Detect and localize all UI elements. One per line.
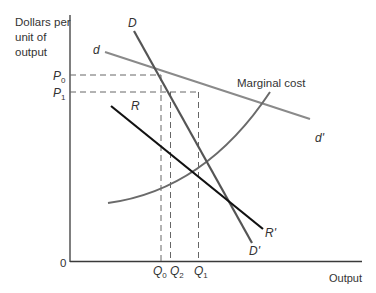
p0-label: P0: [53, 69, 66, 85]
D-end-label: D': [249, 244, 261, 258]
R-start-label: R: [131, 99, 140, 113]
R-end-label: R': [265, 226, 277, 240]
y-axis-label-line2: unit of: [15, 31, 47, 43]
D-start-label: D: [128, 16, 137, 30]
marginal-cost-label: Marginal cost: [237, 77, 306, 89]
y-axis-label-line3: output: [15, 46, 48, 58]
y-axis-label-line1: Dollars per: [15, 16, 71, 28]
q1-label: Q1: [194, 264, 208, 280]
origin-label: 0: [60, 257, 66, 269]
x-axis-label: Output: [329, 272, 362, 284]
q0-label: Q0: [153, 264, 167, 280]
d-end-label: d': [315, 131, 325, 145]
q2-label: Q2: [170, 264, 184, 280]
p1-label: P1: [53, 86, 66, 102]
d-start-label: d: [93, 43, 100, 57]
diagram: Dollars per unit of output P0 P1 0 Q0 Q2…: [0, 0, 376, 293]
